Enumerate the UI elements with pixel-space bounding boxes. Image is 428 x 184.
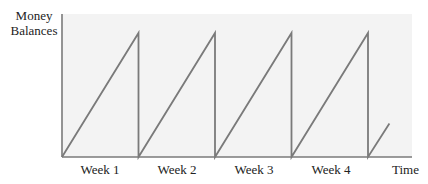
sawtooth-chart: Money Balances Week 1 Week 2 Week 3 Week… — [0, 0, 428, 184]
x-axis-label: Time — [392, 162, 419, 178]
y-axis-label-line1: Money — [8, 8, 60, 23]
x-tick-week-1: Week 1 — [80, 162, 119, 178]
x-tick-week-2: Week 2 — [157, 162, 196, 178]
x-tick-week-4: Week 4 — [311, 162, 350, 178]
y-axis-label-line2: Balances — [8, 23, 60, 38]
y-axis-label: Money Balances — [8, 8, 60, 38]
x-tick-week-3: Week 3 — [234, 162, 273, 178]
chart-canvas — [0, 0, 428, 184]
plot-background — [62, 14, 412, 157]
